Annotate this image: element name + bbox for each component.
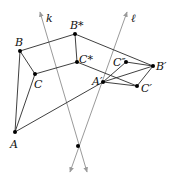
- point-B: [18, 49, 22, 53]
- edge-Ap-Bp: [103, 66, 153, 82]
- label-Cstar: C*: [79, 53, 93, 66]
- label-Cpp: C″: [113, 56, 126, 69]
- point-Bstar: [73, 32, 77, 36]
- line-label-k: k: [46, 12, 53, 25]
- edge-B-C: [20, 51, 35, 74]
- point-A: [13, 130, 17, 134]
- line-l: [70, 12, 127, 172]
- label-C: C: [34, 78, 43, 91]
- point-C: [33, 72, 37, 76]
- label-Bp: B′: [155, 60, 167, 73]
- label-Cp: C′: [141, 82, 152, 95]
- point-Bp: [151, 64, 155, 68]
- reflection-diagram: kℓ ABCB*C*A′C″B′C′: [0, 0, 175, 177]
- line-label-l: ℓ: [131, 12, 136, 25]
- label-Bstar: B*: [69, 19, 84, 32]
- label-Ap: A′: [91, 75, 103, 88]
- edge-A-Ap: [15, 82, 103, 132]
- label-A: A: [9, 138, 18, 151]
- label-B: B: [14, 36, 23, 49]
- point-O: [76, 144, 80, 148]
- edge-C-Cstar: [35, 62, 77, 74]
- edge-Bstar-Cstar: [75, 34, 77, 62]
- vertex-labels: ABCB*C*A′C″B′C′: [9, 19, 167, 151]
- reflection-lines: kℓ: [40, 12, 136, 172]
- point-Cp: [135, 84, 139, 88]
